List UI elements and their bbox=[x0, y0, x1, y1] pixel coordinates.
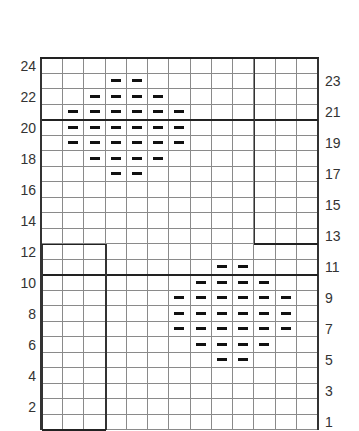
chart-cell bbox=[42, 229, 63, 245]
chart-cell bbox=[276, 384, 297, 400]
chart-cell bbox=[106, 337, 127, 353]
purl-symbol-icon bbox=[174, 312, 184, 315]
chart-cell bbox=[254, 275, 275, 291]
chart-cell bbox=[169, 399, 190, 415]
purl-symbol-icon bbox=[174, 327, 184, 330]
chart-cell bbox=[63, 337, 84, 353]
purl-symbol-icon bbox=[217, 312, 227, 315]
chart-cell bbox=[127, 306, 148, 322]
bottom-left-panel-edge bbox=[42, 244, 106, 246]
row-number-label: 8 bbox=[6, 306, 36, 322]
purl-symbol-icon bbox=[132, 95, 142, 98]
chart-cell bbox=[106, 368, 127, 384]
chart-cell bbox=[148, 306, 169, 322]
purl-symbol-icon bbox=[196, 343, 206, 346]
row-number-label: 19 bbox=[325, 135, 341, 151]
purl-symbol-icon bbox=[174, 126, 184, 129]
purl-symbol-icon bbox=[111, 141, 121, 144]
top-right-panel-edge bbox=[254, 243, 318, 245]
purl-symbol-icon bbox=[238, 296, 248, 299]
row-number-label: 22 bbox=[6, 89, 36, 105]
chart-cell bbox=[276, 74, 297, 90]
purl-symbol-icon bbox=[217, 343, 227, 346]
chart-cell bbox=[84, 198, 105, 214]
purl-symbol-icon bbox=[259, 281, 269, 284]
row-number-label: 21 bbox=[325, 104, 341, 120]
chart-cell bbox=[233, 89, 254, 105]
chart-cell bbox=[233, 136, 254, 152]
chart-cell bbox=[276, 213, 297, 229]
chart-cell bbox=[297, 74, 318, 90]
chart-cell bbox=[233, 322, 254, 338]
purl-symbol-icon bbox=[68, 110, 78, 113]
chart-cell bbox=[42, 120, 63, 136]
chart-cell bbox=[84, 120, 105, 136]
chart-cell bbox=[127, 337, 148, 353]
chart-cell bbox=[42, 353, 63, 369]
chart-cell bbox=[106, 275, 127, 291]
knitting-chart-grid bbox=[42, 58, 318, 430]
chart-cell bbox=[106, 198, 127, 214]
chart-cell bbox=[84, 353, 105, 369]
chart-cell bbox=[127, 213, 148, 229]
purl-symbol-icon bbox=[111, 95, 121, 98]
chart-cell bbox=[42, 415, 63, 431]
chart-cell bbox=[42, 260, 63, 276]
chart-cell bbox=[212, 275, 233, 291]
chart-cell bbox=[63, 368, 84, 384]
chart-cell bbox=[276, 337, 297, 353]
purl-symbol-icon bbox=[238, 358, 248, 361]
purl-symbol-icon bbox=[238, 265, 248, 268]
purl-symbol-icon bbox=[132, 79, 142, 82]
chart-cell bbox=[63, 89, 84, 105]
chart-cell bbox=[63, 244, 84, 260]
row-number-label: 4 bbox=[6, 368, 36, 384]
chart-cell bbox=[148, 213, 169, 229]
chart-cell bbox=[212, 291, 233, 307]
chart-cell bbox=[297, 136, 318, 152]
chart-cell bbox=[169, 260, 190, 276]
chart-cell bbox=[276, 291, 297, 307]
purl-symbol-icon bbox=[281, 327, 291, 330]
chart-cell bbox=[84, 384, 105, 400]
purl-symbol-icon bbox=[90, 95, 100, 98]
chart-cell bbox=[127, 120, 148, 136]
chart-cell bbox=[106, 229, 127, 245]
chart-cell bbox=[191, 151, 212, 167]
chart-cell bbox=[212, 198, 233, 214]
chart-cell bbox=[84, 260, 105, 276]
chart-cell bbox=[276, 198, 297, 214]
chart-cell bbox=[127, 322, 148, 338]
chart-cell bbox=[148, 136, 169, 152]
chart-cell bbox=[127, 229, 148, 245]
chart-cell bbox=[254, 151, 275, 167]
chart-cell bbox=[42, 58, 63, 74]
chart-cell bbox=[297, 384, 318, 400]
chart-cell bbox=[169, 415, 190, 431]
chart-cell bbox=[127, 182, 148, 198]
chart-cell bbox=[233, 384, 254, 400]
purl-symbol-icon bbox=[132, 172, 142, 175]
purl-symbol-icon bbox=[259, 327, 269, 330]
chart-cell bbox=[191, 337, 212, 353]
purl-symbol-icon bbox=[217, 327, 227, 330]
chart-cell bbox=[191, 182, 212, 198]
chart-cell bbox=[106, 384, 127, 400]
purl-symbol-icon bbox=[174, 110, 184, 113]
chart-cell bbox=[84, 182, 105, 198]
chart-cell bbox=[212, 167, 233, 183]
chart-cell bbox=[297, 322, 318, 338]
chart-cell bbox=[254, 306, 275, 322]
chart-cell bbox=[169, 275, 190, 291]
chart-cell bbox=[127, 384, 148, 400]
chart-cell bbox=[297, 120, 318, 136]
chart-cell bbox=[297, 306, 318, 322]
chart-cell bbox=[106, 74, 127, 90]
chart-cell bbox=[297, 89, 318, 105]
chart-cell bbox=[191, 368, 212, 384]
purl-symbol-icon bbox=[174, 296, 184, 299]
chart-cell bbox=[63, 291, 84, 307]
chart-cell bbox=[84, 275, 105, 291]
chart-cell bbox=[276, 415, 297, 431]
chart-cell bbox=[169, 229, 190, 245]
